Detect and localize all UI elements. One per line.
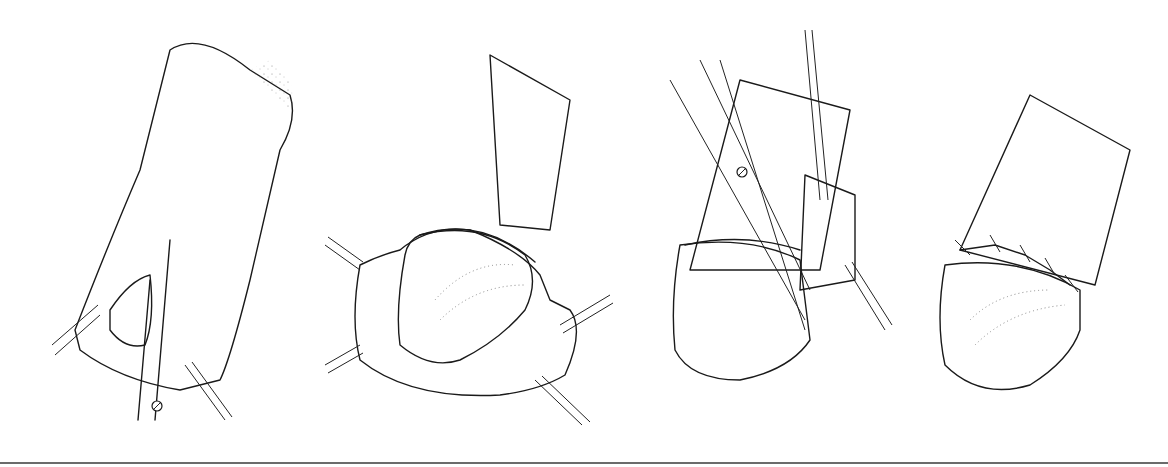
forceps-line-a	[805, 30, 820, 200]
bottom-divider-rule	[0, 462, 1168, 464]
left-forceps-line-b	[52, 305, 98, 345]
clamp-lower-right-a	[535, 380, 582, 425]
retracted-skin-flap	[355, 229, 576, 395]
glans-contour-a	[970, 290, 1050, 320]
scissors-blade-b	[155, 240, 170, 420]
forceps-line-b	[812, 30, 828, 200]
clamp-right-b	[563, 303, 613, 333]
corona-line	[420, 229, 535, 262]
clamp-lower-left-a	[325, 345, 360, 365]
clamp-right-a	[560, 295, 610, 325]
panel-2-drawing	[320, 0, 630, 460]
scissors-blade-a	[138, 280, 150, 420]
right-forceps-line-b	[192, 362, 232, 417]
left-forceps-line-a	[55, 315, 100, 355]
glans-contour-b	[975, 305, 1065, 345]
corona-line	[685, 240, 800, 250]
panel-2-retraction	[320, 0, 630, 460]
panel-1-incision	[30, 0, 310, 460]
clamp-lower-right-b	[542, 376, 590, 422]
lower-forceps-line-b	[852, 262, 892, 325]
scissors-blade	[720, 60, 805, 330]
panel-4-sutured	[920, 0, 1160, 460]
shaft-shape	[490, 55, 570, 230]
glans-shape	[940, 263, 1080, 390]
panel-4-drawing	[920, 0, 1160, 460]
clamp-upper-left-b	[328, 237, 363, 262]
glans-shape	[673, 242, 810, 380]
panel-3-trimming	[650, 0, 910, 460]
panel-3-drawing	[650, 0, 910, 460]
clamp-upper-left-a	[325, 245, 360, 270]
lower-forceps-line-a	[845, 265, 885, 330]
right-forceps-line-a	[185, 365, 225, 420]
panel-1-drawing	[30, 0, 310, 460]
glans-contour-a	[435, 264, 515, 300]
clamp-lower-left-b	[328, 353, 363, 373]
surgical-illustration-figure	[0, 0, 1168, 467]
suture-line	[960, 245, 1070, 285]
shaft-shape	[75, 43, 292, 390]
shaft-shape	[960, 95, 1130, 285]
glans-contour-b	[440, 285, 525, 320]
shaft-highlight	[250, 60, 293, 110]
